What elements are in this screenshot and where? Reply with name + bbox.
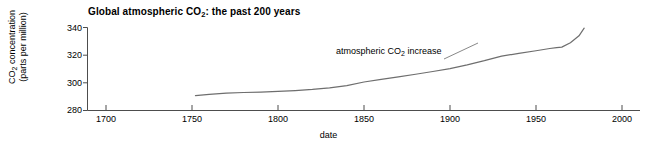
annotation-leader-line [444, 43, 478, 59]
series-annotation-subscript: 2 [401, 50, 405, 57]
chart-figure: Global atmospheric CO2: the past 200 yea… [0, 0, 657, 151]
series-annotation: atmospheric CO2 increase [336, 46, 441, 56]
plot-area [0, 0, 657, 151]
series-annotation-tail: increase [405, 46, 442, 56]
x-axis-title: date [0, 130, 657, 140]
axes [83, 28, 640, 111]
series-annotation-main: atmospheric CO [336, 46, 401, 56]
co2-concentration-line [195, 28, 584, 95]
